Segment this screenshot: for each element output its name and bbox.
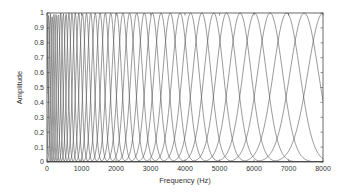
y-tick-label: 0.9 — [34, 24, 44, 31]
y-tick-label: 0.4 — [34, 99, 44, 106]
y-tick-label: 0 — [40, 158, 44, 165]
x-tick-label: 0 — [45, 165, 49, 172]
x-tick-label: 2000 — [108, 165, 124, 172]
y-tick-label: 0.3 — [34, 114, 44, 121]
x-tick-label: 5000 — [212, 165, 228, 172]
y-tick-label: 0.5 — [34, 84, 44, 91]
y-axis-label: Amplitude — [15, 71, 24, 104]
x-tick-label: 8000 — [315, 165, 331, 172]
x-axis-ticks: 010002000300040005000600070008000 — [45, 13, 331, 172]
x-axis-label: Frequency (Hz) — [159, 176, 211, 185]
y-tick-label: 0.2 — [34, 129, 44, 136]
x-tick-label: 1000 — [74, 165, 90, 172]
x-tick-label: 6000 — [246, 165, 262, 172]
x-tick-label: 7000 — [281, 165, 297, 172]
y-tick-label: 0.1 — [34, 144, 44, 151]
y-tick-label: 0.7 — [34, 54, 44, 61]
x-tick-label: 3000 — [143, 165, 159, 172]
x-tick-label: 4000 — [177, 165, 193, 172]
y-tick-label: 0.6 — [34, 69, 44, 76]
y-tick-label: 1 — [40, 9, 44, 16]
filter-curves — [47, 13, 323, 162]
y-tick-label: 0.8 — [34, 39, 44, 46]
filterbank-chart: 00.10.20.30.40.50.60.70.80.91 0100020003… — [0, 0, 354, 192]
